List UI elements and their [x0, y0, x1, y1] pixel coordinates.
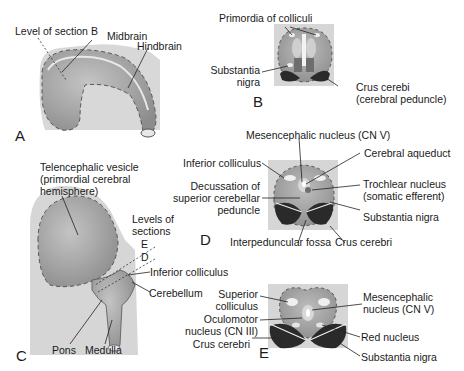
label-level-e: E [141, 238, 148, 250]
label-oculomotor-line1: Oculomotor [180, 313, 258, 325]
label-medulla: Medulla [85, 344, 122, 356]
label-interpeduncular-fossa: Interpeduncular fossa [230, 236, 331, 248]
label-trochlear-line1: Trochlear nucleus [363, 178, 446, 190]
label-hindbrain: Hindbrain [137, 40, 182, 52]
label-trochlear-line2: (somatic efferent) [363, 190, 445, 202]
label-red-nucleus: Red nucleus [361, 331, 419, 343]
panel-letter-d: D [200, 232, 211, 248]
label-mesencephalic-e-line2: nucleus (CN V) [363, 303, 434, 315]
panel-b-illustration [262, 24, 338, 86]
panel-letter-b: B [253, 94, 263, 110]
label-decussation-line1: Decussation of [170, 180, 260, 192]
label-cerebral-aqueduct: Cerebral aqueduct [364, 147, 450, 159]
label-substantia-nigra-e: Substantia nigra [361, 351, 437, 363]
label-mesencephalic-nucleus-d: Mesencephalic nucleus (CN V) [246, 129, 390, 141]
label-crus-cerebri-e: Crus cerebri [180, 338, 250, 350]
label-level-of-section-b: Level of section B [15, 25, 98, 37]
label-decussation-line2: superior cerebellar [170, 192, 260, 204]
label-inferior-colliculus-c: Inferior colliculus [150, 266, 228, 278]
label-telencephalic-line1: Telencephalic vesicle [40, 161, 139, 173]
label-substantia-nigra-b-line1: Substantia [210, 64, 260, 76]
label-pons: Pons [52, 344, 76, 356]
label-crus-cerebi-b-line2: (cerebral peduncle) [356, 93, 446, 105]
label-cerebellum: Cerebellum [149, 287, 203, 299]
label-superior-colliculus-line2: colliculus [200, 300, 258, 312]
panel-a-illustration [38, 38, 160, 137]
label-levels-line2: sections [132, 225, 171, 237]
label-telencephalic-line3: hemisphere) [40, 185, 98, 197]
label-superior-colliculus-line1: Superior [200, 288, 258, 300]
panel-letter-e: E [259, 345, 269, 361]
label-telencephalic-line2: (primordial cerebral [40, 173, 130, 185]
panel-d-illustration [262, 138, 360, 243]
label-level-d: D [141, 251, 149, 263]
label-substantia-nigra-d: Substantia nigra [363, 211, 439, 223]
panel-c-illustration [30, 186, 155, 355]
panel-letter-a: A [15, 128, 25, 144]
panel-letter-c: C [16, 348, 27, 364]
label-oculomotor-line2: nucleus (CN III) [180, 325, 258, 337]
label-inferior-colliculus-d: Inferior colliculus [183, 157, 261, 169]
label-crus-cerebi-b-line1: Crus cerebi [356, 81, 410, 93]
label-crus-cerebri-d: Crus cerebri [335, 236, 392, 248]
label-primordia-of-colliculi: Primordia of colliculi [219, 12, 312, 24]
label-levels-line1: Levels of [132, 213, 174, 225]
label-substantia-nigra-b-line2: nigra [210, 76, 260, 88]
label-mesencephalic-e-line1: Mesencephalic [363, 291, 433, 303]
label-decussation-line3: peduncle [170, 204, 260, 216]
